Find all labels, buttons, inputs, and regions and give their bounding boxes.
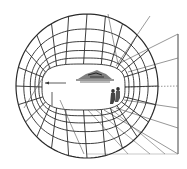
grid-spoke — [84, 14, 88, 64]
diagram-canvas — [0, 0, 187, 169]
grid-spoke — [18, 97, 42, 105]
grid-spoke — [66, 16, 69, 64]
grid-spoke — [110, 108, 122, 148]
grid-spoke — [84, 110, 88, 158]
grid-spoke — [101, 110, 105, 156]
grid-spoke — [18, 67, 42, 77]
grid-spoke — [26, 50, 46, 72]
grid-spoke — [26, 102, 46, 122]
grid-spoke — [37, 35, 50, 68]
visual-field-diagram — [0, 0, 187, 169]
grid-spoke — [37, 106, 50, 137]
grid-spoke — [125, 86, 158, 87]
grid-spoke — [101, 16, 105, 64]
grid-spoke — [16, 86, 42, 87]
grid-spoke — [52, 24, 57, 66]
grid-spoke — [52, 108, 57, 148]
elliptical-grid — [16, 14, 158, 158]
